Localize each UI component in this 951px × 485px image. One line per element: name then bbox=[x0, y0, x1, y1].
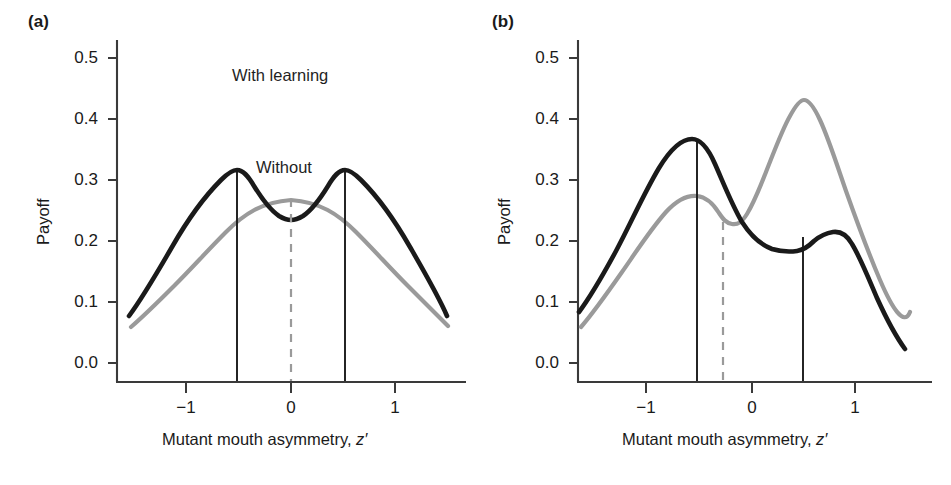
panel-b-curve-with-learning bbox=[579, 139, 905, 349]
panel-b-ytick-3: 0.2 bbox=[513, 231, 559, 251]
panel-a-y-axis-title: Payoff bbox=[34, 199, 53, 245]
panel-a-ytick-5: 0.0 bbox=[52, 353, 98, 373]
panel-a-x-ticks bbox=[186, 382, 395, 393]
panel-a-annotation-without: Without bbox=[256, 158, 312, 177]
panel-b-xtick-2: 1 bbox=[835, 398, 875, 418]
panel-a-y-ticks bbox=[108, 58, 117, 363]
panel-b: (b) bbox=[470, 0, 951, 485]
panel-a-x-axis-title-var: z′ bbox=[356, 430, 367, 448]
panel-a-ytick-2: 0.3 bbox=[52, 170, 98, 190]
panel-b-xtick-0: −1 bbox=[626, 398, 666, 418]
panel-a-x-axis-title-text: Mutant mouth asymmetry, bbox=[162, 430, 356, 448]
panel-b-x-axis-title-text: Mutant mouth asymmetry, bbox=[622, 430, 816, 448]
panel-a-xtick-0: −1 bbox=[166, 398, 206, 418]
panel-a-curve-with-learning bbox=[129, 170, 447, 316]
panel-a: (a) bbox=[0, 0, 475, 485]
panel-b-xtick-1: 0 bbox=[732, 398, 772, 418]
panel-a-xtick-2: 1 bbox=[375, 398, 415, 418]
panel-a-x-axis-title: Mutant mouth asymmetry, z′ bbox=[162, 430, 367, 449]
panel-b-ytick-5: 0.0 bbox=[513, 353, 559, 373]
panel-b-ytick-2: 0.3 bbox=[513, 170, 559, 190]
panel-b-x-axis-title-var: z′ bbox=[816, 430, 827, 448]
panel-b-ytick-1: 0.4 bbox=[513, 109, 559, 129]
panel-a-ytick-4: 0.1 bbox=[52, 292, 98, 312]
panel-b-y-axis-title: Payoff bbox=[495, 199, 514, 245]
panel-b-x-ticks bbox=[646, 382, 855, 393]
panel-a-ytick-3: 0.2 bbox=[52, 231, 98, 251]
panel-b-ytick-4: 0.1 bbox=[513, 292, 559, 312]
panel-a-xtick-1: 0 bbox=[271, 398, 311, 418]
panel-b-ytick-0: 0.5 bbox=[513, 48, 559, 68]
panel-b-curve-without bbox=[581, 100, 910, 327]
panel-a-annotation-with-learning: With learning bbox=[232, 66, 328, 85]
panel-b-y-ticks bbox=[569, 58, 578, 363]
panel-b-x-axis-title: Mutant mouth asymmetry, z′ bbox=[622, 430, 827, 449]
panel-a-ytick-0: 0.5 bbox=[52, 48, 98, 68]
panel-a-ytick-1: 0.4 bbox=[52, 109, 98, 129]
figure-container: (a) bbox=[0, 0, 951, 485]
